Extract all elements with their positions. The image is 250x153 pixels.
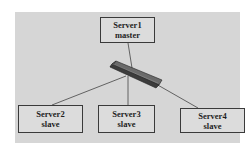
server2-name: Server2 — [19, 109, 82, 119]
server2-slave-node: Server2 slave — [18, 105, 83, 133]
link-hub-server4 — [156, 84, 198, 108]
server1-role: master — [101, 30, 154, 40]
server4-slave-node: Server4 slave — [180, 108, 245, 133]
link-hub-server2 — [52, 76, 126, 105]
server3-slave-node: Server3 slave — [98, 105, 155, 133]
server4-name: Server4 — [181, 111, 244, 121]
server1-master-node: Server1 master — [100, 17, 155, 43]
server3-name: Server3 — [99, 109, 154, 119]
server1-name: Server1 — [101, 20, 154, 30]
server2-role: slave — [19, 119, 82, 129]
server3-role: slave — [99, 119, 154, 129]
switch-hub-icon — [110, 61, 162, 88]
link-server1-hub — [128, 43, 132, 68]
server4-role: slave — [181, 121, 244, 131]
